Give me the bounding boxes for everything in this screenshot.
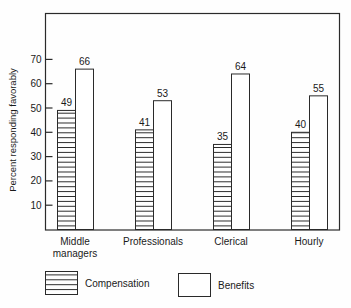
legend-item-benefits: Benefits: [179, 274, 255, 297]
category-label: Hourly: [295, 236, 324, 247]
category-label: Middle: [60, 236, 90, 247]
y-axis-label: Percent responding favorably: [7, 68, 18, 192]
y-tick-label: 30: [30, 151, 42, 162]
bar-chart: 10203040506070 4966415335644055 Middlema…: [0, 0, 351, 308]
value-label: 35: [217, 131, 229, 142]
legend-label-benefits: Benefits: [218, 280, 254, 291]
bar-group: 3564: [214, 61, 250, 230]
bar-compensation: [214, 144, 232, 229]
x-axis-labels: MiddlemanagersProfessionalsClericalHourl…: [53, 236, 324, 259]
value-label: 49: [61, 97, 73, 108]
legend: Compensation Benefits: [46, 272, 255, 297]
category-label: Professionals: [123, 236, 183, 247]
value-label: 40: [295, 119, 307, 130]
value-label: 55: [313, 83, 325, 94]
bar-group: 4153: [136, 88, 172, 230]
y-tick-label: 20: [30, 175, 42, 186]
bar-benefits: [232, 74, 250, 230]
y-tick-label: 50: [30, 103, 42, 114]
legend-item-compensation: Compensation: [46, 272, 150, 295]
bar-compensation: [292, 132, 310, 229]
y-tick-label: 10: [30, 200, 42, 211]
value-label: 41: [139, 117, 151, 128]
legend-label-compensation: Compensation: [85, 278, 149, 289]
category-label: managers: [53, 248, 97, 259]
bar-benefits: [310, 96, 328, 230]
value-label: 53: [157, 88, 169, 99]
value-label: 64: [235, 61, 247, 72]
y-tick-label: 70: [30, 54, 42, 65]
bars: 4966415335644055: [58, 56, 328, 229]
bar-group: 4966: [58, 56, 94, 229]
compensation-swatch: [46, 272, 78, 295]
bar-compensation: [136, 130, 154, 230]
y-tick-label: 60: [30, 78, 42, 89]
benefits-swatch: [179, 274, 211, 297]
bar-group: 4055: [292, 83, 328, 230]
y-tick-label: 40: [30, 127, 42, 138]
category-label: Clerical: [214, 236, 247, 247]
bar-benefits: [154, 101, 172, 230]
value-label: 66: [79, 56, 91, 67]
bar-benefits: [76, 69, 94, 229]
y-axis: 10203040506070: [30, 54, 52, 211]
bar-compensation: [58, 110, 76, 229]
